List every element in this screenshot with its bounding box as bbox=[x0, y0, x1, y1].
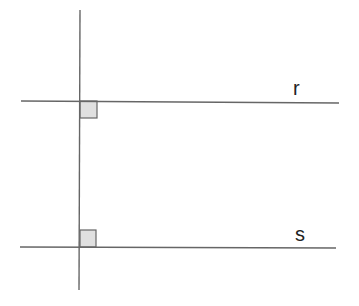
transversal-line bbox=[79, 10, 80, 290]
line-s bbox=[20, 247, 336, 248]
right-angle-marker-r bbox=[80, 101, 97, 118]
line-r bbox=[21, 101, 339, 103]
diagram-canvas bbox=[0, 0, 359, 306]
label-s: s bbox=[295, 224, 305, 244]
right-angle-marker-s bbox=[80, 230, 96, 247]
label-r: r bbox=[293, 78, 300, 98]
